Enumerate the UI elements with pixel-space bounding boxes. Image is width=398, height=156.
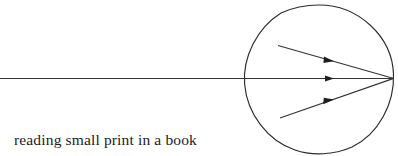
- eyeball-circle: [244, 5, 393, 154]
- figure-caption: reading small print in a book: [14, 131, 197, 148]
- lower-ray-arrow: [280, 79, 393, 118]
- figure-canvas: reading small print in a book: [0, 0, 398, 156]
- axis-ray-arrow: [0, 75, 393, 81]
- upper-ray-arrow: [278, 46, 393, 79]
